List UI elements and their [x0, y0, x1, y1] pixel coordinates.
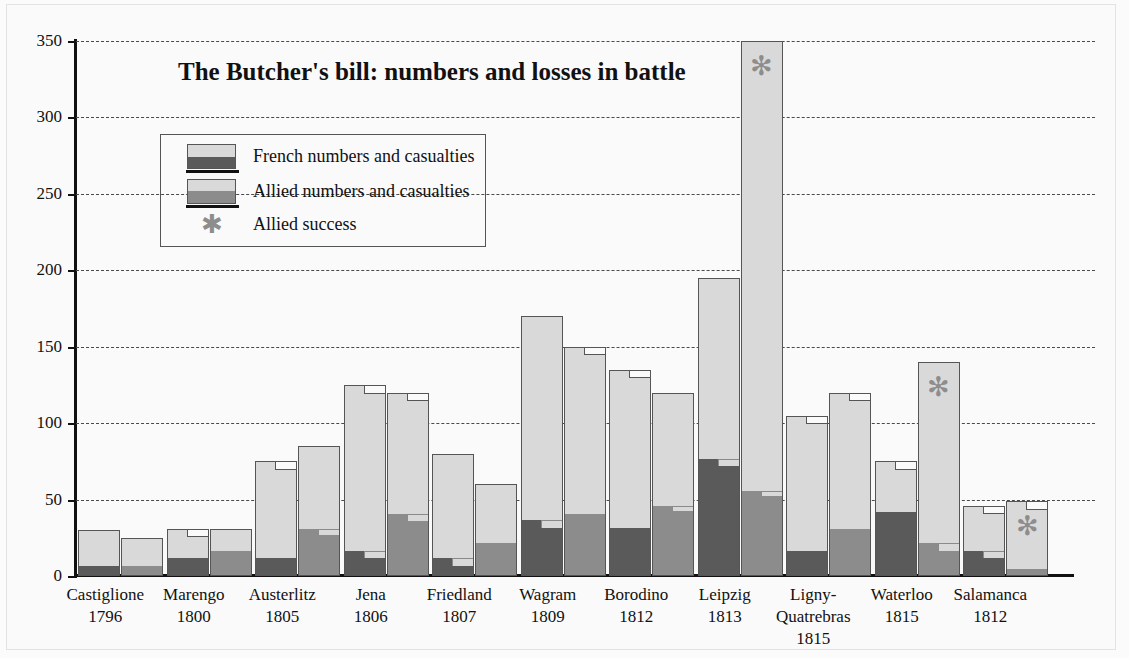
bar-step-notch [849, 394, 870, 402]
x-label-name: Borodino [587, 584, 686, 606]
casualty-block [742, 491, 782, 575]
x-label-year: 1809 [499, 606, 598, 628]
x-tick-label: Wagram1809 [499, 584, 598, 628]
y-tick-label: 300 [18, 108, 62, 125]
x-label-name: Quatrebras [764, 606, 863, 628]
bar-french [609, 370, 651, 576]
x-label-name: Wagram [499, 584, 598, 606]
y-tick-label: 350 [18, 32, 62, 49]
chart-title: The Butcher's bill: numbers and losses i… [178, 58, 686, 86]
casualty-block [610, 528, 650, 575]
x-label-name: Salamanca [941, 584, 1040, 606]
y-tick-mark [68, 194, 75, 196]
casualty-block [699, 459, 739, 575]
x-label-name: Austerlitz [233, 584, 332, 606]
bar-french [963, 506, 1005, 576]
casualty-block [964, 551, 1004, 575]
y-tick-label: 0 [18, 567, 62, 584]
bar-allied [1006, 501, 1048, 576]
bar-french [432, 454, 474, 576]
x-label-year: 1806 [322, 606, 421, 628]
x-tick-label: Leipzig1813 [676, 584, 775, 628]
casualty-block [168, 558, 208, 575]
gridline [76, 270, 1095, 271]
casualty-block [565, 514, 605, 575]
x-label-year: 1812 [587, 606, 686, 628]
casualty-block [388, 514, 428, 575]
y-tick-label: 150 [18, 338, 62, 355]
x-label-year: 1807 [410, 606, 509, 628]
casualty-block [919, 543, 959, 575]
x-label-name: Friedland [410, 584, 509, 606]
bar-allied [652, 393, 694, 576]
chart-page: Thousands of men / casualties ✻✻✻ 050100… [0, 0, 1129, 658]
casualty-step-notch [541, 520, 562, 528]
bar-step-notch [629, 371, 650, 379]
y-tick-mark [68, 41, 75, 43]
casualty-step-notch [761, 491, 782, 496]
bar-step-notch [275, 462, 296, 470]
y-tick-mark [68, 117, 75, 119]
x-label-year: 1813 [676, 606, 775, 628]
x-tick-label: Salamanca1812 [941, 584, 1040, 628]
x-label-name: Leipzig [676, 584, 775, 606]
bar-french [786, 416, 828, 577]
x-tick-label: Friedland1807 [410, 584, 509, 628]
casualty-block [653, 506, 693, 575]
bar-french [167, 529, 209, 576]
bar-step-notch [364, 386, 385, 394]
bar-allied [475, 484, 517, 576]
allied-swatch-icon [187, 179, 236, 204]
casualty-block [256, 558, 296, 575]
bar-step-notch [806, 417, 827, 425]
y-tick-mark [68, 576, 75, 578]
casualty-block [787, 551, 827, 575]
casualty-block [122, 566, 162, 575]
x-label-name: Jena [322, 584, 421, 606]
bar-french [344, 385, 386, 576]
legend-label-french: French numbers and casualties [253, 146, 474, 167]
legend-label-allied: Allied numbers and casualties [253, 181, 469, 202]
asterisk-icon: ✱ [187, 212, 236, 238]
bar-french [521, 316, 563, 576]
casualty-block [345, 551, 385, 575]
bar-allied [564, 347, 606, 576]
casualty-block [876, 512, 916, 575]
x-label-year: 1796 [56, 606, 155, 628]
x-label-name: Castiglione [56, 584, 155, 606]
x-label-year: 1805 [233, 606, 332, 628]
y-tick-mark [68, 270, 75, 272]
bar-french [255, 461, 297, 576]
gridline [76, 41, 1095, 42]
casualty-step-notch [718, 459, 739, 467]
bar-allied [298, 446, 340, 576]
casualty-block [433, 558, 473, 575]
gridline [76, 117, 1095, 118]
x-tick-label: Borodino1812 [587, 584, 686, 628]
casualty-step-notch [407, 514, 428, 522]
casualty-step-notch [938, 543, 959, 551]
bar-french [875, 461, 917, 576]
bar-step-notch [187, 530, 208, 538]
y-tick-label: 50 [18, 491, 62, 508]
bar-allied [829, 393, 871, 576]
bar-french [698, 278, 740, 576]
casualty-step-notch [452, 558, 473, 566]
y-tick-mark [68, 423, 75, 425]
bar-allied [918, 362, 960, 576]
casualty-block [476, 543, 516, 575]
plot-area: ✻✻✻ [76, 41, 1095, 576]
y-tick-label: 200 [18, 261, 62, 278]
x-tick-label: Ligny-Quatrebras1815 [764, 584, 863, 649]
chart-legend: French numbers and casualties Allied num… [160, 134, 486, 247]
casualty-step-notch [318, 529, 339, 535]
casualty-block [1007, 569, 1047, 575]
legend-item-french: French numbers and casualties [161, 141, 487, 172]
casualty-block [79, 566, 119, 575]
casualty-step-notch [364, 551, 385, 559]
x-tick-label: Austerlitz1805 [233, 584, 332, 628]
x-label-year: 1815 [764, 628, 863, 650]
x-label-year: 1812 [941, 606, 1040, 628]
x-label-name: Marengo [145, 584, 244, 606]
legend-label-allied-success: Allied success [253, 214, 356, 235]
